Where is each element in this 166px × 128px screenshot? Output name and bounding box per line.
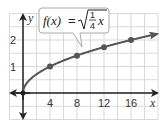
y-tick-label: 1 xyxy=(10,61,16,73)
y-tick-label: 2 xyxy=(10,34,16,46)
fraction-denominator: 4 xyxy=(90,21,95,31)
x-axis-label: x xyxy=(149,96,156,110)
data-point xyxy=(74,53,80,59)
data-point xyxy=(21,91,26,96)
x-tick-label: 12 xyxy=(98,97,110,109)
data-point xyxy=(47,64,53,70)
formula-variable: x xyxy=(97,13,104,28)
function-graph: 48121612 x y f(x) = 1 4 x xyxy=(0,0,166,128)
y-axis-label: y xyxy=(27,11,34,25)
tick-labels: 48121612 xyxy=(10,34,137,109)
fraction-numerator: 1 xyxy=(90,10,95,20)
data-point xyxy=(128,37,134,43)
x-tick-label: 4 xyxy=(47,97,53,109)
x-tick-label: 16 xyxy=(125,97,137,109)
x-tick-label: 8 xyxy=(74,97,80,109)
formula-lhs: f(x) xyxy=(43,13,61,28)
data-point xyxy=(101,44,107,50)
formula-equals: = xyxy=(68,13,76,28)
